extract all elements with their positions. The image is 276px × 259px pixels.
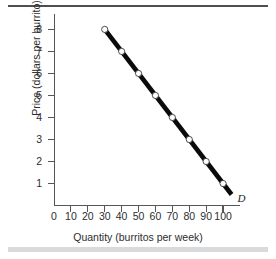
data-point-marker: [169, 114, 175, 120]
y-axis-title: Price (dollars per burrito): [30, 0, 42, 133]
data-point-marker: [186, 136, 192, 142]
data-point-marker: [119, 48, 125, 54]
demand-curve-figure: 12345678 0102030405060708090100 D Price …: [0, 0, 276, 259]
data-point-marker: [102, 26, 108, 32]
data-point-marker: [220, 180, 226, 186]
data-point-marker: [135, 70, 141, 76]
data-point-marker: [152, 92, 158, 98]
data-point-marker: [203, 158, 209, 164]
x-axis-title: Quantity (burritos per week): [0, 231, 276, 243]
demand-curve-label: D: [238, 192, 246, 204]
